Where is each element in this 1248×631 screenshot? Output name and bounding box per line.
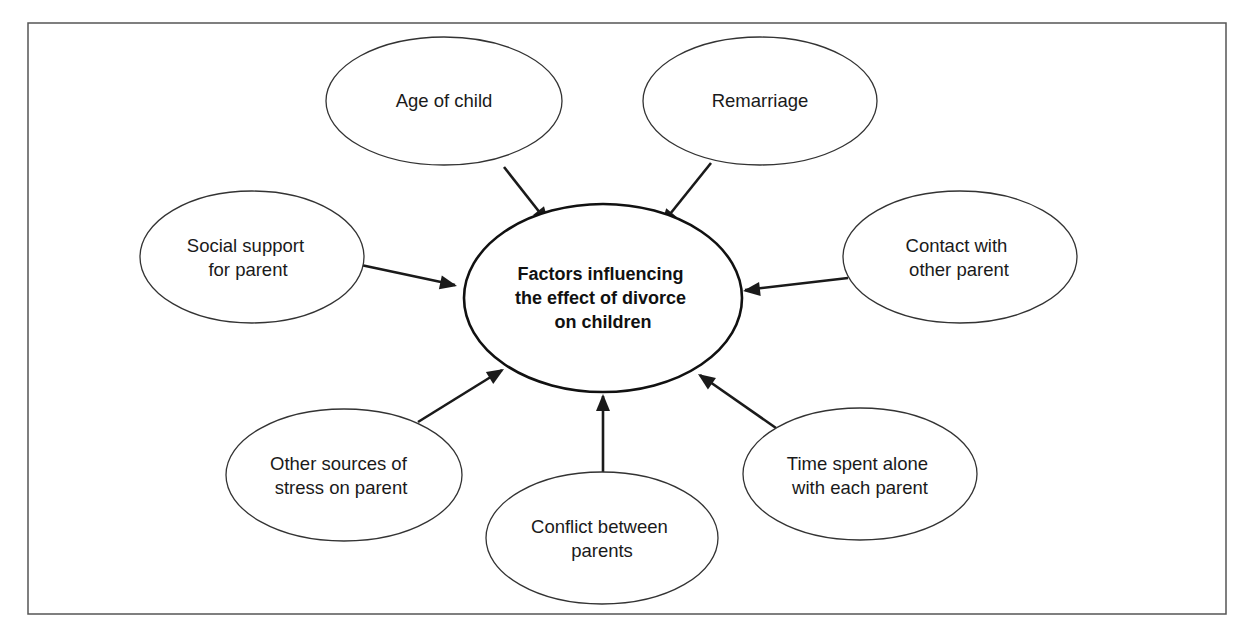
factor-label-line: parents [571,540,633,561]
center-label-line-1: Factors influencing [517,264,683,284]
arrowhead-icon [439,276,459,293]
factor-label-line: Age of child [396,90,493,111]
arrowhead-icon [486,363,508,384]
factor-label-line: other parent [909,259,1009,280]
factor-node-social-support: Social support for parent [140,191,364,323]
factor-label-line: Time spent alone [787,453,928,474]
factor-label-line: for parent [208,259,287,280]
factor-ellipse [226,409,462,541]
factor-ellipse [140,191,364,323]
factor-label-line: with each parent [791,477,928,498]
factor-label-line: Social support [187,235,304,256]
factor-node-age: Age of child [326,37,562,165]
factor-node-other-stress: Other sources of stress on parent [226,409,462,541]
factor-label-line: Remarriage [712,90,809,111]
factor-node-contact: Contact with other parent [843,191,1077,323]
factor-node-conflict: Conflict between parents [486,472,718,604]
arrowhead-icon [694,368,716,389]
arrowhead-icon [742,282,760,298]
center-node: Factors influencing the effect of divorc… [464,204,742,392]
arrow-contact-to-center [745,278,848,290]
diagram-canvas: Factors influencing the effect of divorc… [0,0,1248,631]
factor-ellipse [843,191,1077,323]
factor-label-line: Conflict between [531,516,668,537]
arrowhead-icon [596,394,610,411]
factor-label: Remarriage [712,90,809,111]
factor-ellipse [743,408,977,540]
factor-label-line: Other sources of [270,453,408,474]
center-label-line-3: on children [554,312,651,332]
factor-node-time-alone: Time spent alone with each parent [743,408,977,540]
factor-node-remarriage: Remarriage [643,37,877,165]
factor-label: Age of child [396,90,493,111]
factor-ellipse [486,472,718,604]
arrow-stress-to-center [418,370,502,422]
factor-label-line: stress on parent [275,477,408,498]
factor-label-line: Contact with [906,235,1008,256]
center-label-line-2: the effect of divorce [515,288,686,308]
